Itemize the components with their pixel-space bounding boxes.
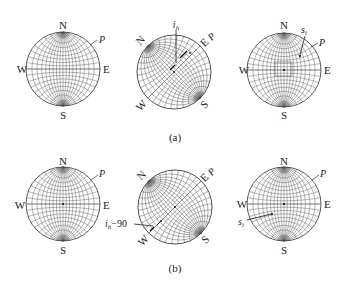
- label-east: E: [103, 63, 110, 75]
- plane-pointer: [312, 175, 319, 180]
- plane-pointer: [311, 43, 318, 47]
- stereonet-figure: N S E W P N E P S W ih N S E W P si (a) …: [0, 0, 347, 289]
- si-point: [299, 55, 301, 57]
- si-point: [271, 213, 273, 215]
- annotation-si: si: [238, 216, 244, 229]
- label-west: W: [237, 198, 248, 210]
- label-plane-p: P: [98, 168, 105, 179]
- label-south: S: [281, 244, 287, 256]
- label-west: W: [17, 63, 28, 75]
- marker-2: [157, 222, 160, 225]
- label-south: S: [60, 244, 66, 256]
- label-south: S: [198, 98, 211, 111]
- annotation-si: si: [301, 24, 307, 37]
- label-north: N: [134, 168, 148, 182]
- label-west: W: [15, 199, 26, 211]
- caption-b: (b): [169, 262, 182, 275]
- label-south: S: [199, 233, 212, 246]
- label-plane-p: P: [319, 168, 326, 179]
- label-north: N: [280, 155, 288, 167]
- label-north: N: [59, 19, 67, 31]
- center-point: [283, 69, 285, 71]
- pole-point: [160, 220, 162, 222]
- plane-pointer: [90, 40, 97, 45]
- center-point: [173, 71, 175, 73]
- label-north: N: [133, 33, 147, 47]
- pole-point: [189, 52, 191, 54]
- label-west: W: [133, 97, 149, 113]
- label-east: E: [324, 198, 331, 210]
- plane-pointer: [91, 175, 98, 180]
- label-south: S: [281, 109, 287, 121]
- center-point: [174, 206, 176, 208]
- label-plane-p: P: [98, 34, 105, 45]
- annotation-ih-minus-90: ih−90: [105, 218, 127, 231]
- label-west: W: [239, 64, 250, 76]
- center-point: [62, 203, 64, 205]
- label-north: N: [280, 19, 288, 31]
- center-point: [283, 203, 285, 205]
- label-east: E: [324, 64, 331, 76]
- label-west: W: [135, 232, 151, 248]
- label-north: N: [59, 155, 67, 167]
- wulff-net-a1: [26, 32, 100, 106]
- label-south: S: [60, 109, 66, 121]
- label-plane-p: P: [318, 37, 325, 48]
- label-east: E: [103, 199, 110, 211]
- caption-a: (a): [169, 131, 182, 144]
